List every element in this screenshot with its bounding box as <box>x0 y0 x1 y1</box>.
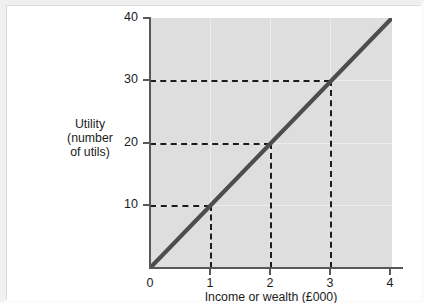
plot-area <box>150 18 392 268</box>
x-axis <box>149 267 403 269</box>
guide-line-horizontal-10 <box>150 205 210 207</box>
guide-line-vertical-1 <box>210 205 212 268</box>
x-tick-label-4: 4 <box>375 276 405 290</box>
y-axis-title: Utility (number of utils) <box>50 117 130 159</box>
y-tick-label-40: 40 <box>102 11 138 24</box>
y-axis-title-line-3: of utils) <box>50 145 130 159</box>
y-tick-20 <box>143 142 150 144</box>
y-tick-label-10: 10 <box>102 198 138 211</box>
guide-line-vertical-3 <box>330 80 332 268</box>
x-axis-title: Income or wealth (£000) <box>150 290 392 303</box>
x-tick-label-2: 2 <box>255 276 285 290</box>
y-axis-title-line-1: Utility <box>50 117 130 131</box>
guide-line-horizontal-20 <box>150 143 270 145</box>
x-tick-4 <box>389 269 391 275</box>
y-tick-40 <box>143 17 150 19</box>
y-tick-10 <box>143 204 150 206</box>
x-tick-3 <box>329 269 331 275</box>
x-tick-2 <box>269 269 271 275</box>
figure-container: 40 30 20 10 0 1 2 3 4 Utility (number of… <box>0 0 424 303</box>
y-tick-label-30: 30 <box>102 73 138 86</box>
y-tick-30 <box>143 79 150 81</box>
x-tick-label-3: 3 <box>315 276 345 290</box>
x-tick-label-1: 1 <box>195 276 225 290</box>
guide-line-horizontal-30 <box>150 80 330 82</box>
y-axis-title-line-2: (number <box>50 131 130 145</box>
x-tick-1 <box>209 269 211 275</box>
guide-line-vertical-2 <box>270 143 272 268</box>
x-tick-label-0: 0 <box>135 276 165 290</box>
